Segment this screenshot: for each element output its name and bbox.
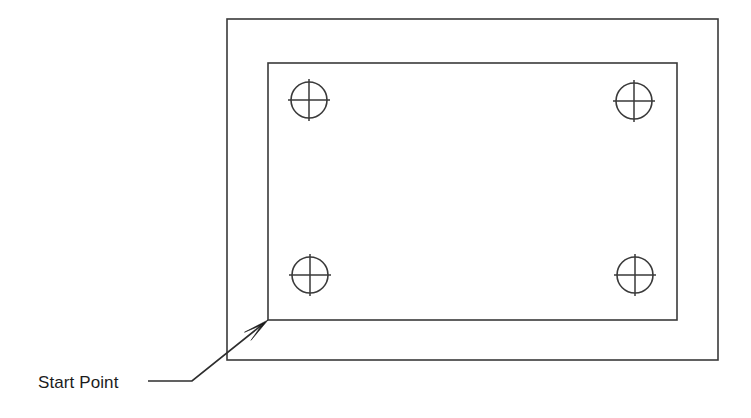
outer-rectangle [227, 19, 718, 360]
diagram-canvas: Start Point [0, 0, 751, 418]
fastener-bottom-left-crosshair-icon [289, 254, 331, 296]
fastener-bottom-right [614, 254, 656, 296]
fastener-bottom-left [289, 254, 331, 296]
fastener-bottom-right-crosshair-icon [614, 254, 656, 296]
callout-leader-line [148, 326, 261, 381]
fastener-top-left [288, 79, 330, 121]
callout-label-start-point: Start Point [38, 373, 119, 392]
fastener-top-right [613, 80, 655, 122]
fastener-top-left-crosshair-icon [288, 79, 330, 121]
technical-diagram: Start Point [0, 0, 751, 418]
fastener-top-right-crosshair-icon [613, 80, 655, 122]
